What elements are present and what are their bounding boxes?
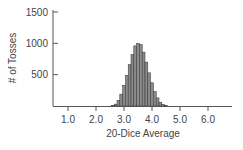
y-axis-title: # of Tosses — [7, 33, 18, 83]
histogram-bar — [131, 55, 134, 106]
histogram-chart: 50010001500 1.02.03.04.05.06.0 20-Dice A… — [0, 0, 243, 150]
histogram-bar — [153, 92, 156, 106]
histogram-bar — [111, 105, 114, 106]
histogram-bar — [139, 45, 142, 106]
x-tick-label: 4.0 — [145, 114, 159, 125]
histogram-bar — [145, 62, 148, 106]
x-ticks: 1.02.03.04.05.06.0 — [61, 106, 215, 125]
x-tick-label: 5.0 — [173, 114, 187, 125]
histogram-bar — [142, 52, 145, 106]
histogram-bar — [114, 104, 117, 106]
histogram-bar — [165, 105, 168, 106]
x-tick-label: 6.0 — [201, 114, 215, 125]
y-tick-label: 1000 — [26, 38, 49, 49]
histogram-bar — [156, 98, 159, 106]
histogram-bar — [123, 85, 126, 106]
histogram-bar — [117, 100, 120, 106]
y-tick-label: 1500 — [26, 7, 49, 18]
histogram-bar — [159, 102, 162, 106]
histogram-bar — [162, 104, 165, 106]
histogram-bar — [137, 43, 140, 106]
y-tick-label: 500 — [31, 69, 48, 80]
histogram-bar — [128, 65, 131, 106]
histogram-bars — [111, 43, 167, 106]
histogram-bar — [151, 83, 154, 106]
x-tick-label: 2.0 — [89, 114, 103, 125]
histogram-bar — [148, 73, 151, 106]
histogram-bar — [125, 75, 128, 106]
x-axis-title: 20-Dice Average — [106, 128, 180, 139]
x-tick-label: 1.0 — [61, 114, 75, 125]
histogram-bar — [120, 94, 123, 106]
histogram-bar — [134, 46, 137, 106]
x-tick-label: 3.0 — [117, 114, 131, 125]
